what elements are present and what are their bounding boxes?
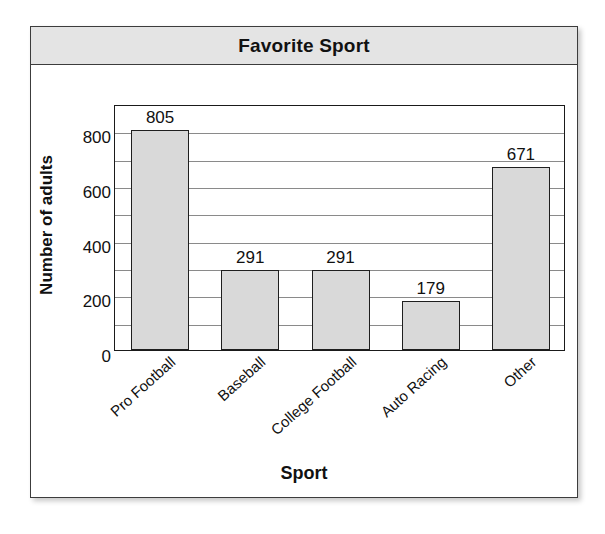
bar-value-label: 805 [120, 108, 200, 128]
chart-card: Favorite Sport Number of adults 02004006… [30, 26, 578, 498]
bar-value-label: 671 [481, 145, 561, 165]
bar-value-label: 291 [210, 248, 290, 268]
y-axis-tick-label: 800 [59, 128, 111, 148]
x-axis-tick-label: Other [439, 353, 540, 446]
bars-layer: 805291291179671 [115, 106, 564, 350]
y-axis-title: Number of adults [35, 105, 59, 345]
x-axis-tick-label: Auto Racing [349, 353, 450, 446]
y-axis-title-text: Number of adults [37, 155, 57, 295]
y-axis-tick-labels: 0200400600800 [59, 111, 111, 361]
chart-body: Number of adults 0200400600800 805291291… [31, 65, 577, 497]
y-axis-tick-label: 600 [59, 183, 111, 203]
x-axis-tick-label: Baseball [168, 353, 269, 446]
bar-value-label: 179 [391, 279, 471, 299]
bar-value-label: 291 [301, 248, 381, 268]
chart-title-bar: Favorite Sport [31, 27, 577, 65]
bar [312, 270, 370, 350]
x-axis-tick-labels: Pro FootballBaseballCollege FootballAuto… [114, 353, 565, 463]
page-title: Favorite Sport [238, 35, 370, 57]
bar [131, 130, 189, 350]
plot-area: 805291291179671 [114, 105, 565, 351]
x-axis-title: Sport [31, 463, 577, 484]
bar [402, 301, 460, 350]
y-axis-tick-label: 0 [59, 347, 111, 367]
bar [221, 270, 279, 350]
x-axis-tick-label: College Football [258, 353, 359, 446]
y-axis-tick-label: 400 [59, 238, 111, 258]
y-axis-tick-label: 200 [59, 292, 111, 312]
bar [492, 167, 550, 350]
